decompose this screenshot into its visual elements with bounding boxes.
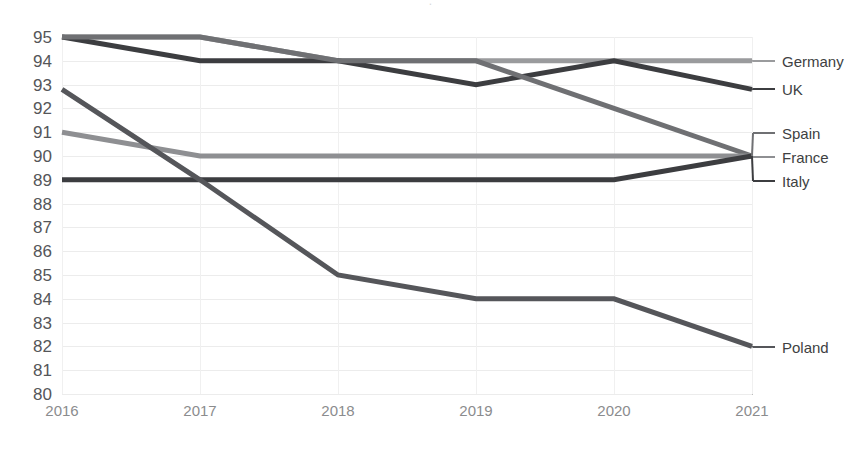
legend-item-label: Germany xyxy=(782,54,844,69)
legend-swatch-icon xyxy=(753,132,775,134)
legend-item[interactable]: France xyxy=(753,148,829,166)
series-lines-layer xyxy=(0,0,861,449)
legend-item-label: France xyxy=(782,150,829,165)
legend-swatch-icon xyxy=(753,88,775,90)
legend-item[interactable]: Poland xyxy=(753,338,829,356)
legend-item[interactable]: Germany xyxy=(753,52,844,70)
legend-swatch-icon xyxy=(753,180,775,182)
legend-item-label: Italy xyxy=(782,174,810,189)
series-line xyxy=(62,132,752,156)
legend-swatch-icon xyxy=(753,346,775,348)
legend-swatch-icon xyxy=(753,60,775,62)
legend-item-label: Poland xyxy=(782,340,829,355)
legend-item-label: UK xyxy=(782,82,803,97)
legend-item[interactable]: Spain xyxy=(753,124,820,142)
legend-swatch-icon xyxy=(753,156,775,158)
line-chart: . 95949392919089888786858483828180 20162… xyxy=(0,0,861,449)
series-line xyxy=(62,89,752,346)
legend-item-label: Spain xyxy=(782,126,820,141)
legend-item[interactable]: UK xyxy=(753,80,803,98)
chart-legend: GermanyUKSpainFranceItalyPoland xyxy=(753,0,861,449)
legend-item[interactable]: Italy xyxy=(753,172,810,190)
